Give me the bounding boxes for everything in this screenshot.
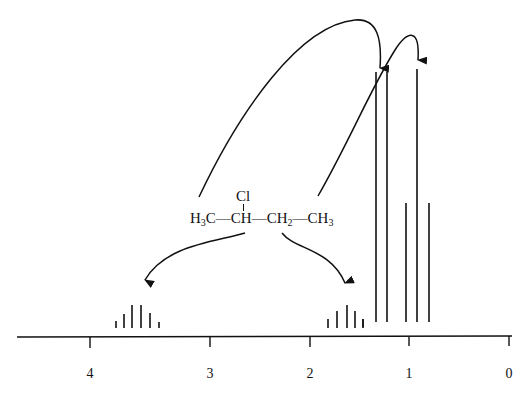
- chlorine-substituent: Cl: [236, 188, 250, 205]
- arrow-ch3-left: [199, 20, 380, 197]
- ch2-group: CH: [267, 210, 288, 226]
- bond: —: [252, 210, 267, 226]
- tick-label-3: 3: [200, 366, 220, 382]
- tick-label-1: 1: [399, 366, 419, 382]
- bond: —: [216, 210, 231, 226]
- subscript: 3: [328, 217, 333, 228]
- nmr-spectrum: [0, 0, 528, 397]
- spectrum-peaks: [116, 69, 429, 328]
- ppm-axis: [17, 336, 512, 348]
- bond: —: [293, 210, 308, 226]
- tick-label-0: 0: [499, 366, 519, 382]
- arrow-ch3-right: [318, 35, 418, 196]
- ch3-group: CH: [308, 210, 329, 226]
- arrow-ch2-down: [282, 233, 345, 283]
- h3c-tail: C: [206, 210, 216, 226]
- h3c-group: H: [190, 210, 201, 226]
- ch-group: CH: [231, 210, 252, 226]
- tick-label-4: 4: [80, 366, 100, 382]
- molecule-formula: H3C—CH—CH2—CH3: [190, 211, 333, 228]
- assignment-arrows: [145, 20, 418, 283]
- tick-label-2: 2: [300, 366, 320, 382]
- arrow-ch-down: [145, 233, 245, 280]
